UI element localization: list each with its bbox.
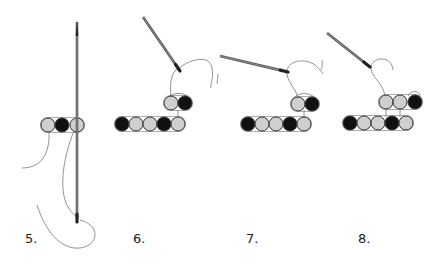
dark-bead: [115, 117, 129, 131]
dark-bead: [241, 117, 255, 131]
light-bead: [129, 117, 143, 131]
thread-step-8: [371, 59, 393, 96]
light-bead: [41, 118, 55, 132]
thread-step-7-stray: [321, 60, 322, 70]
light-bead: [371, 116, 385, 130]
thread-step-7: [287, 61, 323, 98]
thread-step-5-lower-loop: [37, 205, 95, 248]
beads: [41, 95, 422, 132]
dark-bead: [305, 97, 319, 111]
thread-step-5-tail: [22, 131, 49, 168]
step-label-8: 8.: [358, 231, 370, 246]
needle-icon: [327, 33, 370, 67]
light-bead: [255, 117, 269, 131]
light-bead: [399, 116, 413, 130]
light-bead: [291, 97, 305, 111]
light-bead: [269, 117, 283, 131]
diagram-canvas: [0, 0, 443, 263]
needle-icon: [220, 56, 288, 72]
dark-bead: [283, 117, 297, 131]
step-label-5: 5.: [25, 231, 37, 246]
light-bead: [393, 95, 407, 109]
thread-step-6-stray: [217, 74, 218, 84]
light-bead: [357, 116, 371, 130]
threads: [22, 59, 420, 248]
dark-bead: [157, 117, 171, 131]
dark-bead: [408, 95, 422, 109]
dark-bead: [385, 116, 399, 130]
needle-icon: [76, 20, 79, 222]
light-bead: [143, 117, 157, 131]
light-bead: [164, 96, 178, 110]
needle-icon: [143, 17, 180, 71]
step-label-6: 6.: [133, 231, 145, 246]
dark-bead: [343, 116, 357, 130]
light-bead: [297, 117, 311, 131]
step-label-7: 7.: [246, 231, 258, 246]
dark-bead: [55, 118, 69, 132]
light-bead: [379, 95, 393, 109]
dark-bead: [178, 96, 192, 110]
beading-diagram: 5. 6. 7. 8.: [0, 0, 443, 263]
light-bead: [171, 117, 185, 131]
